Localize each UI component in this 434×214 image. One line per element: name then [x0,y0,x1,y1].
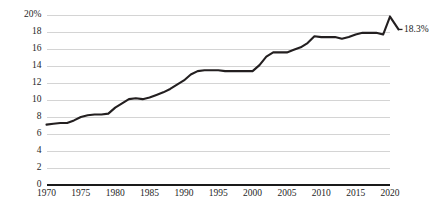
y-axis-tick-label: 18 [32,26,42,36]
x-axis-tick-label: 1985 [140,188,159,198]
y-axis-tick-label: 10 [32,94,42,104]
data-series-tail [390,17,399,30]
line-chart: 02468101214161820% 197019751980198519901… [0,0,434,214]
x-axis-tick-labels: 1970197519801985199019952000200520102015… [37,188,400,198]
x-axis-tick-label: 2000 [243,188,262,198]
x-axis-tick-label: 1975 [71,188,90,198]
y-axis-tick-labels: 02468101214161820% [24,9,42,189]
x-axis-tick-label: 2020 [381,188,400,198]
y-axis-tick-label: 4 [37,145,42,155]
y-axis-tick-label: 12 [32,77,42,87]
y-axis-tick-label: 14 [32,60,42,70]
x-axis-tick-label: 2010 [312,188,331,198]
end-value-annotation: 18.3% [404,24,429,34]
y-axis-tick-label: 2 [37,162,42,172]
y-axis-tick-label: 8 [37,111,42,121]
x-axis-tick-label: 1995 [209,188,228,198]
data-series-line [47,17,391,125]
y-axis-tick-label: 20% [24,9,42,19]
chart-container: 02468101214161820% 197019751980198519901… [0,0,434,214]
y-axis-tick-label: 16 [32,43,42,53]
x-axis-tick-label: 1970 [37,188,56,198]
x-axis-tick-label: 1990 [174,188,193,198]
x-axis-tick-label: 1980 [106,188,125,198]
x-axis-tick-label: 2005 [277,188,296,198]
x-axis-tick-label: 2015 [346,188,365,198]
y-axis-tick-label: 6 [37,128,42,138]
